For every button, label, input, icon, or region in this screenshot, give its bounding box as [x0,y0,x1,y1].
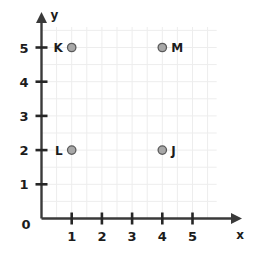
y-tick-label: 2 [19,143,28,158]
axes [36,12,242,224]
y-tick-label: 3 [19,109,28,124]
coordinate-plane-svg: 12345123450 yx KMLJ [0,0,256,254]
x-tick-label: 3 [128,229,137,244]
x-axis-label: x [236,228,244,242]
x-tick-label: 5 [188,229,197,244]
x-tick-label: 1 [67,229,76,244]
origin-label: 0 [21,217,30,232]
data-point-label: K [53,41,63,55]
tick-marks [36,48,193,225]
y-tick-label: 5 [19,41,28,56]
y-tick-label: 4 [19,75,28,90]
data-point-marker [68,43,76,51]
data-point-label: M [171,41,183,55]
tick-labels: 12345123450 [19,41,197,244]
coordinate-plane-figure: 12345123450 yx KMLJ [0,0,256,254]
x-tick-label: 2 [97,229,106,244]
data-point-marker [158,43,166,51]
y-axis-label: y [51,8,59,22]
data-point-label: J [170,144,175,158]
y-axis-arrow-icon [36,12,47,23]
x-tick-label: 4 [158,229,167,244]
data-point-marker [158,146,166,154]
grid-lines [42,27,217,219]
data-point-label: L [55,144,63,158]
y-tick-label: 1 [19,177,28,192]
data-point-marker [68,146,76,154]
x-axis-arrow-icon [231,213,242,224]
